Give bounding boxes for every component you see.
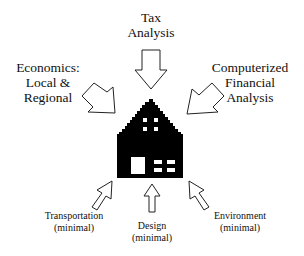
- label-line: (minimal): [204, 222, 276, 234]
- label-line: Financial: [198, 75, 302, 90]
- label-line: Computerized: [198, 60, 302, 75]
- arrow-down-icon: [135, 50, 167, 89]
- label-environment: Environment (minimal): [204, 210, 276, 234]
- label-line: Transportation: [36, 210, 112, 222]
- label-economics: Economics: Local & Regional: [10, 60, 86, 105]
- house-icon: [117, 99, 183, 178]
- label-line: Regional: [10, 90, 86, 105]
- label-line: Design: [126, 220, 178, 232]
- arrow-down-right-icon: [82, 83, 115, 113]
- label-line: Economics:: [10, 60, 86, 75]
- label-line: Analysis: [198, 90, 302, 105]
- label-line: Local &: [10, 75, 86, 90]
- arrow-up-icon: [144, 184, 160, 212]
- label-line: Tax: [120, 10, 182, 25]
- label-line: Environment: [204, 210, 276, 222]
- label-design: Design (minimal): [126, 220, 178, 244]
- label-tax-analysis: Tax Analysis: [120, 10, 182, 40]
- label-transportation: Transportation (minimal): [36, 210, 112, 234]
- label-line: (minimal): [36, 222, 112, 234]
- arrow-up-left-icon: [189, 181, 209, 210]
- label-line: Analysis: [120, 25, 182, 40]
- label-line: (minimal): [126, 232, 178, 244]
- arrow-up-right-icon: [92, 181, 112, 210]
- label-computerized-financial-analysis: Computerized Financial Analysis: [198, 60, 302, 105]
